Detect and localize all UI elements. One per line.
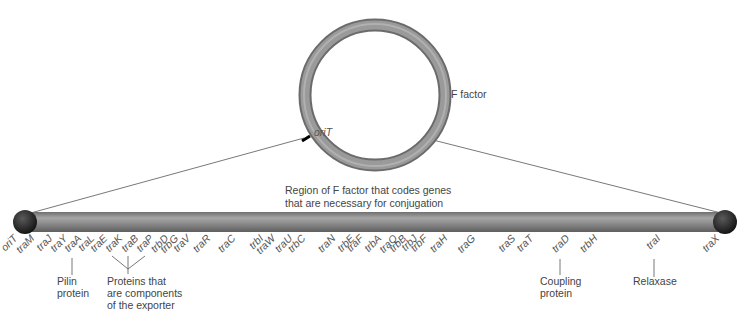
gene-label-trbH: trbH xyxy=(577,232,600,255)
orit-marker xyxy=(302,136,310,141)
gene-label-traI: traI xyxy=(643,232,662,251)
relaxase-caption: Relaxase xyxy=(633,275,677,287)
tube-end-cap-left xyxy=(13,210,37,234)
gene-label-traG: traG xyxy=(454,232,477,255)
exporter-caption-line2: are components xyxy=(107,287,182,299)
region-caption-line2: that are necessary for conjugation xyxy=(285,197,443,209)
gene-label-traR: traR xyxy=(190,232,213,255)
pilin-caption-line1: Pilin xyxy=(57,275,77,287)
plasmid-ring xyxy=(304,24,446,166)
gene-label-traH: traH xyxy=(427,232,450,255)
pilin-caption-line2: protein xyxy=(57,287,89,299)
expansion-line-right xyxy=(433,140,725,214)
expansion-line-left xyxy=(27,138,304,214)
gene-label-traS: traS xyxy=(495,232,517,254)
f-factor-diagram: oriT F factor Region of F factor that co… xyxy=(0,0,747,327)
gene-label-traD: traD xyxy=(549,232,572,255)
orit-ring-label: oriT xyxy=(314,126,334,138)
coupling-caption-line1: Coupling xyxy=(540,275,582,287)
exporter-leader-lines xyxy=(112,256,145,274)
exporter-caption-line3: of the exporter xyxy=(107,299,175,311)
plasmid-name-label: F factor xyxy=(451,88,487,100)
tube-end-cap-right xyxy=(713,210,737,234)
gene-label-traC: traC xyxy=(215,232,238,255)
coupling-caption-line2: protein xyxy=(540,287,572,299)
region-caption-line1: Region of F factor that codes genes xyxy=(285,184,451,196)
gene-label-traN: traN xyxy=(315,232,338,255)
gene-labels: oriTtraMtraJtraYtraAtraLtraEtraKtraBtraP… xyxy=(0,231,722,256)
exporter-caption-line1: Proteins that xyxy=(107,275,166,287)
gene-label-traX: traX xyxy=(699,231,722,254)
gene-label-traT: traT xyxy=(514,231,537,254)
conjugation-region-tube xyxy=(25,212,725,232)
